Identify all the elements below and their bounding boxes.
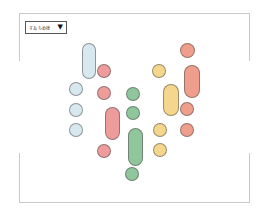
red-circle-2[interactable] xyxy=(97,86,111,100)
frame-right-edge-top xyxy=(249,13,250,61)
green-pill[interactable] xyxy=(128,128,143,166)
frame-left-edge-bottom xyxy=(19,153,20,203)
frame-left-edge-top xyxy=(19,13,20,61)
yellow-pill[interactable] xyxy=(163,84,179,116)
red-circle-1[interactable] xyxy=(97,64,111,78)
green-circle-3[interactable] xyxy=(125,167,139,181)
blue-circle-1[interactable] xyxy=(69,82,83,96)
yellow-circle-2[interactable] xyxy=(153,123,167,137)
blue-circle-3[interactable] xyxy=(69,123,83,137)
salmon-circle-1[interactable] xyxy=(180,43,195,58)
yellow-circle-1[interactable] xyxy=(152,64,166,78)
frame-top-edge xyxy=(19,13,250,14)
red-pill[interactable] xyxy=(105,107,120,140)
frame-right-edge-bottom xyxy=(249,153,250,203)
red-circle-3[interactable] xyxy=(97,144,111,158)
dropdown-label: すあちめ様 xyxy=(29,25,51,31)
salmon-circle-2[interactable] xyxy=(180,102,194,116)
blue-pill[interactable] xyxy=(82,43,96,79)
salmon-circle-3[interactable] xyxy=(180,123,194,137)
filter-dropdown[interactable]: すあちめ様 ▼ xyxy=(25,21,67,34)
yellow-circle-3[interactable] xyxy=(153,143,167,157)
salmon-pill[interactable] xyxy=(184,65,200,98)
triangle-down-icon: ▼ xyxy=(58,24,63,31)
green-circle-1[interactable] xyxy=(126,87,140,101)
frame-bottom-edge xyxy=(19,202,250,203)
blue-circle-2[interactable] xyxy=(69,103,83,117)
green-circle-2[interactable] xyxy=(126,106,140,120)
